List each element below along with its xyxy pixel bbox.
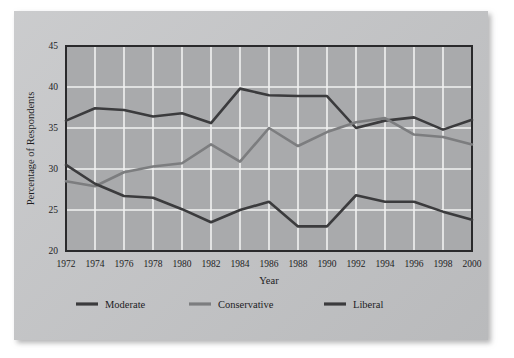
y-axis-title: Percentage of Respondents — [25, 92, 36, 206]
x-tick-label: 1992 — [347, 259, 366, 269]
x-tick-label: 1998 — [434, 259, 453, 269]
legend-label-liberal: Liberal — [353, 299, 383, 310]
x-tick-label: 2000 — [463, 259, 482, 269]
y-tick-label: 25 — [49, 205, 59, 215]
x-tick-label: 1972 — [57, 259, 76, 269]
chart-legend: ModerateConservativeLiberal — [76, 299, 383, 310]
x-tick-label: 1982 — [202, 259, 221, 269]
x-tick-label: 1988 — [289, 259, 308, 269]
x-tick-label: 1974 — [86, 259, 105, 269]
x-tick-label: 1986 — [260, 259, 279, 269]
legend-label-moderate: Moderate — [105, 299, 146, 310]
x-axis-title: Year — [259, 275, 279, 286]
y-tick-label: 40 — [49, 82, 59, 92]
x-tick-label: 1996 — [405, 259, 424, 269]
x-tick-label: 1978 — [144, 259, 163, 269]
y-axis-tick-labels: 202530354045 — [49, 41, 59, 256]
line-chart: 202530354045 197219741976197819801982198… — [14, 11, 488, 340]
x-tick-label: 1980 — [173, 259, 192, 269]
y-tick-label: 45 — [49, 41, 59, 51]
y-tick-label: 35 — [49, 123, 59, 133]
x-tick-label: 1994 — [376, 259, 395, 269]
x-tick-label: 1976 — [115, 259, 134, 269]
x-tick-label: 1984 — [231, 259, 250, 269]
chart-screenshot: 202530354045 197219741976197819801982198… — [0, 0, 514, 358]
x-axis-tick-labels: 1972197419761978198019821984198619881990… — [57, 259, 482, 269]
y-tick-label: 20 — [49, 246, 59, 256]
y-tick-label: 30 — [49, 164, 59, 174]
legend-label-conservative: Conservative — [218, 299, 274, 310]
x-tick-label: 1990 — [318, 259, 337, 269]
